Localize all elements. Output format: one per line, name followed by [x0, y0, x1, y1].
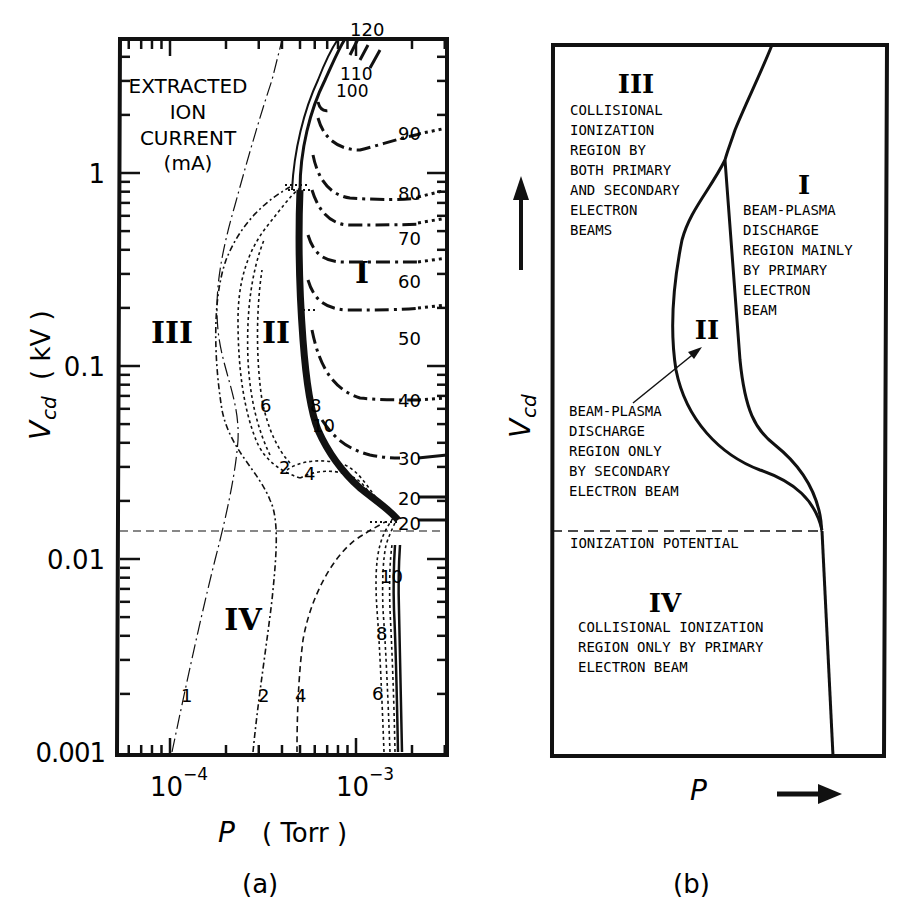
label-2-lower: 2 — [258, 685, 269, 706]
svg-text:COLLISIONAL IONIZATION: COLLISIONAL IONIZATION — [578, 619, 763, 635]
svg-text:REGION BY: REGION BY — [570, 142, 646, 158]
panel-b-x-label: P — [690, 774, 707, 807]
label-8-upper: 8 — [310, 395, 321, 416]
svg-text:ION: ION — [170, 100, 207, 124]
svg-text:ELECTRON BEAM: ELECTRON BEAM — [569, 483, 679, 499]
panel-b-region-IV: IV COLLISIONAL IONIZATION REGION ONLY BY… — [578, 588, 764, 675]
svg-text:REGION ONLY: REGION ONLY — [569, 443, 662, 459]
y-tick-1: 1 — [88, 159, 105, 189]
svg-text:ELECTRON: ELECTRON — [743, 282, 810, 298]
label-60: 60 — [398, 271, 421, 292]
svg-text:III: III — [618, 69, 655, 99]
y-tick-0.01: 0.01 — [47, 545, 105, 575]
label-30: 30 — [398, 448, 421, 469]
label-10-lower: 10 — [380, 566, 403, 587]
boundary-IV-right — [822, 531, 833, 756]
svg-text:ELECTRON BEAM: ELECTRON BEAM — [578, 659, 688, 675]
label-1: 1 — [181, 685, 192, 706]
svg-text:( kV ): ( kV ) — [26, 310, 56, 380]
panel-b-region-I: I BEAM-PLASMA DISCHARGE REGION MAINLY BY… — [743, 170, 853, 318]
caption-b: (b) — [673, 869, 710, 899]
y-tick-0.001: 0.001 — [36, 738, 105, 768]
figure: 1 0.1 0.01 0.001 10 −4 10 −3 P ( Torr ) … — [0, 0, 905, 909]
region-IV-label: IV — [224, 602, 262, 637]
panel-b: V cd P (b) III COLLISIONAL IONIZATION RE… — [504, 45, 887, 899]
curve-100mA — [318, 102, 330, 111]
region-III-label: III — [151, 315, 193, 350]
svg-text:EXTRACTED: EXTRACTED — [129, 74, 248, 98]
label-6-upper: 6 — [260, 395, 271, 416]
label-20-upper: 20 — [398, 488, 421, 509]
boundary-I-II-upper — [300, 39, 345, 190]
label-120: 120 — [350, 19, 384, 40]
label-8-lower: 8 — [376, 623, 387, 644]
panel-a: 1 0.1 0.01 0.001 10 −4 10 −3 P ( Torr ) … — [24, 19, 447, 899]
x-arrow-icon — [777, 784, 842, 804]
label-10-upper: 10 — [312, 415, 335, 436]
label-2-upper: 2 — [279, 457, 290, 478]
panel-b-region-III: III COLLISIONAL IONIZATION REGION BY BOT… — [570, 69, 680, 238]
svg-text:REGION MAINLY: REGION MAINLY — [743, 242, 853, 258]
label-40: 40 — [398, 390, 421, 411]
svg-text:DISCHARGE: DISCHARGE — [743, 222, 819, 238]
curve-labels: 120 110 100 90 80 70 60 50 40 30 20 20 8… — [181, 19, 421, 706]
svg-text:10: 10 — [336, 772, 369, 802]
label-4-lower: 4 — [295, 685, 306, 706]
svg-text:AND SECONDARY: AND SECONDARY — [570, 182, 680, 198]
svg-text:II: II — [695, 315, 719, 345]
legend-title: EXTRACTED ION CURRENT (mA) — [129, 74, 248, 175]
label-70: 70 — [398, 228, 421, 249]
x-tick-1e-3: 10 −3 — [336, 764, 394, 802]
svg-text:cd: cd — [37, 396, 61, 420]
svg-text:BEAM-PLASMA: BEAM-PLASMA — [743, 202, 836, 218]
svg-text:ELECTRON: ELECTRON — [570, 202, 637, 218]
svg-text:( Torr ): ( Torr ) — [262, 818, 347, 848]
y-arrow-icon — [513, 176, 529, 270]
label-100: 100 — [336, 81, 368, 101]
svg-text:V: V — [504, 417, 537, 438]
y-axis-label: V cd ( kV ) — [24, 310, 61, 440]
svg-text:10: 10 — [150, 772, 183, 802]
svg-text:I: I — [798, 170, 810, 200]
svg-text:DISCHARGE: DISCHARGE — [569, 423, 645, 439]
svg-text:BEAM-PLASMA: BEAM-PLASMA — [569, 403, 662, 419]
svg-text:cd: cd — [517, 394, 541, 418]
svg-text:CURRENT: CURRENT — [140, 126, 237, 150]
label-90: 90 — [398, 123, 421, 144]
caption-a: (a) — [242, 869, 278, 899]
curve-4mA — [297, 522, 385, 752]
panel-b-ionization-label: IONIZATION POTENTIAL — [570, 535, 739, 551]
y-axis-ticks-left — [120, 57, 140, 694]
svg-text:−4: −4 — [183, 764, 208, 784]
label-80: 80 — [398, 183, 421, 204]
region-II-pointer-arrow-icon — [633, 347, 702, 403]
svg-text:COLLISIONAL: COLLISIONAL — [570, 102, 663, 118]
svg-text:REGION ONLY BY PRIMARY: REGION ONLY BY PRIMARY — [578, 639, 764, 655]
y-tick-0.1: 0.1 — [64, 352, 105, 382]
curve-2mA-upper — [258, 270, 291, 463]
panel-b-region-II: II BEAM-PLASMA DISCHARGE REGION ONLY BY … — [569, 315, 719, 499]
svg-text:BY PRIMARY: BY PRIMARY — [743, 262, 828, 278]
svg-text:IV: IV — [649, 588, 682, 618]
boundary-III-I — [725, 45, 772, 160]
svg-text:BEAM: BEAM — [743, 302, 777, 318]
x-axis-label: P ( Torr ) — [218, 816, 347, 849]
svg-text:BOTH PRIMARY: BOTH PRIMARY — [570, 162, 672, 178]
svg-text:−3: −3 — [369, 764, 394, 784]
svg-text:V: V — [24, 419, 57, 440]
label-20-lower: 20 — [398, 513, 421, 534]
label-50: 50 — [398, 328, 421, 349]
svg-text:BY SECONDARY: BY SECONDARY — [569, 463, 671, 479]
svg-text:BEAMS: BEAMS — [570, 222, 612, 238]
panel-b-y-label: V cd — [504, 394, 541, 438]
svg-text:(mA): (mA) — [164, 151, 213, 175]
region-I-label: I — [355, 255, 369, 290]
label-6-lower: 6 — [372, 683, 383, 704]
region-II-label: II — [262, 315, 290, 350]
svg-text:IONIZATION: IONIZATION — [570, 122, 654, 138]
y-axis-ticks-right — [427, 57, 447, 694]
x-tick-1e-4: 10 −4 — [150, 764, 208, 802]
label-4-upper: 4 — [304, 463, 315, 484]
svg-text:P: P — [218, 816, 235, 849]
